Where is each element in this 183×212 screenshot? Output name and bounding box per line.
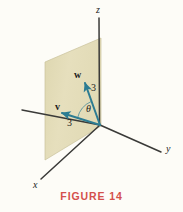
axis-label-y: y [166,144,170,154]
vector-label-w: w [74,70,81,80]
axis-label-z: z [96,5,100,15]
vector-magnitude-w: 3 [91,83,96,93]
y-axis-line [100,125,161,152]
vector-label-v: v [55,102,60,112]
figure-14-container: z y x w 3 v 3 θ FIGURE 14 [0,0,183,212]
figure-diagram-canvas [0,0,183,212]
shaded-plane [45,38,101,160]
figure-caption: FIGURE 14 [0,190,183,202]
angle-label-theta: θ [86,104,91,114]
vector-magnitude-v: 3 [67,118,72,128]
axis-label-x: x [33,180,37,190]
z-axis-line [99,18,100,125]
